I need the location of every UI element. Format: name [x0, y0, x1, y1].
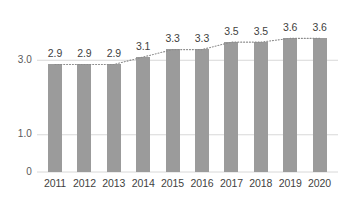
- x-tick-label-2018: 2018: [245, 177, 277, 189]
- plot-area: 01.03.0 20112012201320142015201620172018…: [0, 0, 350, 205]
- x-tick-label-2011: 2011: [39, 177, 71, 189]
- x-tick-label-2013: 2013: [98, 177, 130, 189]
- x-tick-label-2016: 2016: [186, 177, 218, 189]
- data-label-2011: 2.9: [39, 47, 71, 59]
- y-tick-label-3.0: 3.0: [6, 54, 32, 65]
- x-tick-label-2019: 2019: [274, 177, 306, 189]
- x-tick-label-2020: 2020: [304, 177, 336, 189]
- data-label-2015: 3.3: [157, 32, 189, 44]
- data-label-2012: 2.9: [68, 47, 100, 59]
- data-label-2013: 2.9: [98, 47, 130, 59]
- data-label-2020: 3.6: [304, 21, 336, 33]
- x-tick-label-2012: 2012: [68, 177, 100, 189]
- data-label-2016: 3.3: [186, 32, 218, 44]
- x-tick-label-2017: 2017: [215, 177, 247, 189]
- y-tick-label-0: 0: [6, 166, 32, 177]
- data-label-2017: 3.5: [215, 25, 247, 37]
- data-label-2014: 3.1: [127, 40, 159, 52]
- x-tick-label-2015: 2015: [157, 177, 189, 189]
- x-tick-label-2014: 2014: [127, 177, 159, 189]
- y-tick-label-1.0: 1.0: [6, 128, 32, 139]
- bar-chart: 01.03.0 20112012201320142015201620172018…: [0, 0, 350, 205]
- data-label-2019: 3.6: [274, 21, 306, 33]
- data-label-2018: 3.5: [245, 25, 277, 37]
